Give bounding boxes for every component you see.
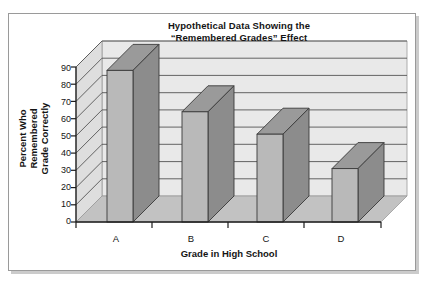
y-axis (71, 67, 76, 222)
figure: Hypothetical Data Showing the “Remembere… (0, 0, 429, 291)
y-tick-label-0: 0 (47, 216, 71, 226)
chart-title: Hypothetical Data Showing the “Remembere… (79, 20, 399, 43)
bar-c-front-face (257, 134, 283, 222)
bar-a-side-face (133, 44, 159, 222)
bar-b-front-face (182, 112, 208, 222)
y-axis-title: Percent Who Remembered Grade Correctly (17, 69, 50, 209)
x-tick-label-a: A (96, 233, 136, 244)
y-axis-title-line-1: Percent Who (17, 69, 28, 209)
y-axis-title-line-2: Remembered (28, 69, 39, 209)
y-tick-label-20: 20 (47, 182, 71, 192)
x-tick-label-c: C (246, 233, 286, 244)
chart-plot-area: Hypothetical Data Showing the “Remembere… (9, 14, 417, 272)
x-tick-label-d: D (321, 233, 361, 244)
y-tick-label-40: 40 (47, 148, 71, 158)
x-tick-label-b: B (171, 233, 211, 244)
x-axis-title: Grade in High School (69, 248, 389, 259)
y-tick-label-10: 10 (47, 199, 71, 209)
y-tick-label-90: 90 (47, 63, 71, 73)
x-axis (76, 222, 381, 228)
bar-a-front-face (107, 70, 133, 222)
y-tick-label-70: 70 (47, 97, 71, 107)
y-tick-label-30: 30 (47, 165, 71, 175)
chart-title-line-2: “Remembered Grades” Effect (79, 32, 399, 44)
bar-a[interactable] (107, 44, 159, 222)
chart-frame: Hypothetical Data Showing the “Remembere… (8, 13, 416, 271)
bar-b[interactable] (182, 86, 234, 222)
y-tick-label-60: 60 (47, 114, 71, 124)
y-tick-label-80: 80 (47, 80, 71, 90)
y-tick-label-50: 50 (47, 131, 71, 141)
chart-title-line-1: Hypothetical Data Showing the (79, 20, 399, 32)
bar-d-front-face (332, 169, 358, 222)
